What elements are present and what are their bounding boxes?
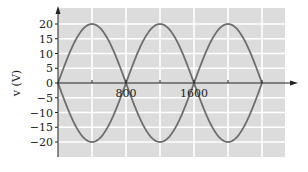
x-tick-label: 1600 bbox=[180, 87, 208, 100]
y-tick-label: −5 bbox=[37, 92, 53, 105]
y-tick-label: 15 bbox=[39, 33, 53, 46]
chart: 20151050−5−10−15−208001600 v (V) bbox=[0, 0, 308, 172]
y-tick-label: −20 bbox=[30, 136, 53, 149]
y-tick-label: −15 bbox=[30, 121, 53, 134]
y-tick-label: 10 bbox=[39, 48, 53, 61]
x-axis-arrow-icon bbox=[290, 81, 298, 86]
y-tick-label: 0 bbox=[46, 77, 53, 90]
y-tick-label: 5 bbox=[46, 62, 53, 75]
x-tick-label: 800 bbox=[116, 87, 137, 100]
y-tick-label: 20 bbox=[39, 18, 53, 31]
y-tick-label: −10 bbox=[30, 107, 53, 120]
y-axis-label: v (V) bbox=[10, 70, 23, 97]
